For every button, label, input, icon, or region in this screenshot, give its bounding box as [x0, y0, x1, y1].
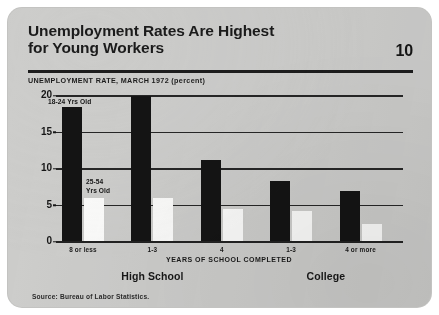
bar-18-24-2: [201, 160, 221, 242]
x-axis-label-2: 4: [220, 246, 224, 253]
bar-25-54-3: [292, 211, 312, 242]
y-axis-tick-10: 10: [41, 162, 52, 173]
gridline-10: 10: [56, 168, 403, 170]
chart-card: Unemployment Rates Are Highest for Young…: [8, 8, 431, 307]
chart-subtitle: UNEMPLOYMENT RATE, MARCH 1972 (percent): [28, 76, 205, 85]
bar-25-54-1: [153, 198, 173, 242]
y-axis-tick-15: 15: [41, 126, 52, 137]
series-label-25-54: 25-54Yrs Old: [86, 178, 110, 195]
page-title-line-2: for Young Workers: [28, 39, 318, 56]
gridline-20: 20: [56, 95, 403, 97]
y-axis-tick-5: 5: [46, 199, 52, 210]
header-divider: [28, 70, 413, 73]
page-title: Unemployment Rates Are Highest for Young…: [28, 22, 318, 56]
y-axis-tick-0: 0: [46, 235, 52, 246]
bar-25-54-4: [362, 224, 382, 242]
group-label-high-school: High School: [121, 270, 183, 282]
x-axis-label-1: 1-3: [147, 246, 157, 253]
bar-25-54-2: [223, 209, 243, 242]
page-title-line-1: Unemployment Rates Are Highest: [28, 22, 274, 39]
x-axis-title: YEARS OF SCHOOL COMPLETED: [166, 256, 292, 263]
gridline-15: 15: [56, 132, 403, 134]
bar-18-24-3: [270, 181, 290, 242]
x-axis-label-0: 8 or less: [69, 246, 97, 253]
x-axis-label-4: 4 or more: [345, 246, 376, 253]
bar-18-24-0: [62, 107, 82, 242]
x-axis-line: [56, 241, 403, 243]
bar-18-24-4: [340, 191, 360, 242]
group-label-college: College: [307, 270, 346, 282]
page-number: 10: [396, 42, 413, 60]
plot-area: 0510152018-24 Yrs Old25-54Yrs Old: [56, 96, 403, 242]
source-note: Source: Bureau of Labor Statistics.: [32, 293, 149, 300]
x-axis-label-3: 1-3: [286, 246, 296, 253]
series-label-18-24: 18-24 Yrs Old: [48, 98, 91, 107]
card-header: Unemployment Rates Are Highest for Young…: [28, 22, 413, 66]
bar-25-54-0: [84, 198, 104, 242]
bar-18-24-1: [131, 96, 151, 242]
